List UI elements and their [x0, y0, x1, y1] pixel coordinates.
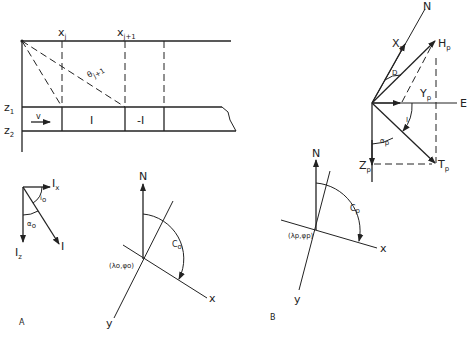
- panel-label-b: B: [270, 313, 276, 322]
- ray-to-xj: [22, 41, 62, 107]
- layer-break: [222, 107, 236, 131]
- ray-to-xj1: [22, 41, 125, 107]
- label-inclination-b: I: [406, 116, 408, 124]
- label-origin-b: (λp,φp): [288, 232, 314, 240]
- label-declination: D: [392, 69, 397, 77]
- map-coordinates-b: N x y Cp (λp,φp): [281, 147, 387, 306]
- label-alpha: αo: [27, 220, 36, 230]
- panel-label-a: A: [19, 318, 25, 327]
- label-z2: z2: [4, 124, 14, 139]
- label-hp: Hp: [438, 37, 451, 52]
- label-yp: Yp: [419, 87, 432, 102]
- y-axis-b: [299, 171, 330, 290]
- label-iz: Iz: [15, 246, 22, 261]
- label-north-c: N: [312, 147, 320, 160]
- label-y: y: [106, 317, 113, 330]
- label-block-positive: I: [90, 114, 93, 127]
- label-block-negative: -I: [137, 114, 144, 127]
- label-x: x: [209, 292, 216, 305]
- label-north: N: [139, 170, 147, 183]
- label-east: E: [460, 97, 467, 110]
- label-z1: z1: [4, 101, 14, 116]
- label-xj1: xj+1: [117, 26, 136, 41]
- label-north-b: N: [423, 0, 431, 13]
- label-v: v: [36, 112, 41, 121]
- x-axis: [123, 245, 207, 298]
- label-xp: Xp: [392, 37, 405, 52]
- magnetization-vector-diagram: Ix Iz I io αo: [15, 177, 64, 261]
- xp-arrow: [372, 44, 405, 103]
- alpha-arc: [23, 211, 38, 215]
- geomagnetic-field-diagram: N E Xp Yp Hp Zp Tp D I αp: [359, 0, 467, 182]
- label-inclination: io: [40, 194, 46, 204]
- label-y-b: y: [294, 293, 301, 306]
- label-xj: xj: [58, 26, 67, 41]
- geophysics-diagram: xj xj+1 θj+1 z1 z2 v I -I Ix Iz I io αo …: [0, 0, 476, 337]
- label-x-b: x: [380, 242, 387, 255]
- tp-arrow: [372, 103, 435, 163]
- label-alpha-p: αp: [380, 137, 390, 147]
- label-tp: Tp: [437, 158, 450, 173]
- profile-model: xj xj+1 θj+1 z1 z2 v I -I: [4, 26, 236, 152]
- label-origin: (λo,φo): [109, 262, 134, 270]
- label-c-b: Cp: [350, 204, 361, 215]
- label-theta: θj+1: [86, 63, 107, 82]
- label-ix: Ix: [52, 177, 59, 192]
- map-coordinates-a: N x y Co (λo,φo): [106, 170, 216, 330]
- label-zp: Zp: [359, 159, 372, 174]
- label-i: I: [61, 240, 64, 253]
